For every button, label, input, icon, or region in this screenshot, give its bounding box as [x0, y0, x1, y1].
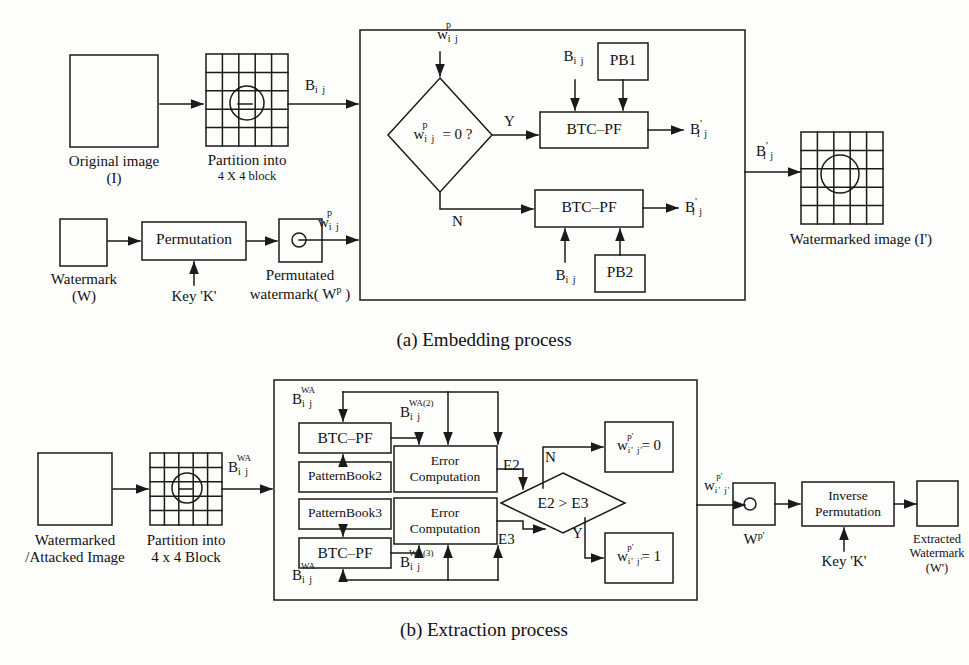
error-computation-top-line1: Error — [410, 453, 481, 469]
branch-yes-label-a: Y — [504, 114, 515, 130]
inverse-permutation-label: Inverse Permutation — [815, 488, 881, 519]
b-in-top-label-a: Bi j — [563, 49, 584, 67]
partition-label-a-line2: 4 X 4 block — [208, 169, 287, 183]
embedding-process-box — [360, 30, 745, 300]
pb1-label: PB1 — [610, 52, 637, 68]
result-one-label: wi' j'p'= 1 — [617, 549, 661, 566]
permuted-watermark-line2: watermark( Wp ) — [250, 284, 351, 303]
watermark-label: Watermark (W) — [51, 271, 117, 306]
key-label-a: Key 'K' — [172, 289, 217, 305]
btc-pf-top-label-a: BTC–PF — [566, 121, 621, 137]
attacked-image-line1: Watermarked — [25, 532, 125, 549]
branch-yes-label-b: Y — [572, 526, 583, 542]
inverse-permutation-line2: Permutation — [815, 504, 881, 520]
permuted-watermark-line1: Permutated — [250, 267, 351, 284]
b-final-label-a: B'i j — [756, 140, 779, 162]
watermark-label-line1: Watermark — [51, 271, 117, 288]
original-image-square — [70, 55, 158, 147]
figure-root: Original image (I) Partition into 4 X 4 … — [0, 0, 969, 665]
error-computation-top-line2: Computation — [410, 469, 481, 485]
decision-a-sup: p — [422, 119, 427, 130]
caption-b: (b) Extraction process — [400, 620, 568, 640]
partition-label-a: Partition into 4 X 4 block — [208, 152, 287, 184]
wp-signal-label: wi jp — [318, 214, 345, 233]
b-in-bottom-label-a: Bi j — [555, 268, 576, 286]
b-wa2-label: Bi jWA(2) — [400, 405, 446, 423]
w-out-label: wi' j'p' — [704, 478, 736, 495]
wp-prime-label: Wp' — [744, 531, 765, 548]
watermark-label-line2: (W) — [51, 288, 117, 305]
btc-pf-bottom-label-a: BTC–PF — [561, 199, 616, 215]
partition-grid-a — [206, 54, 288, 146]
watermarked-grid — [801, 132, 883, 224]
wp-input-label-a: wi jp — [437, 26, 464, 45]
partition-highlight-circle-b — [172, 473, 202, 503]
partition-label-b-line1: Partition into — [147, 532, 226, 549]
error-computation-bottom-line1: Error — [410, 505, 481, 521]
decision-diamond-a-label: wi jp= 0 ? — [413, 126, 472, 145]
e2-label: E2 — [503, 458, 520, 474]
key-label-b: Key 'K' — [822, 554, 867, 570]
b-wa-bottom-inner-label: Bi jWA — [292, 568, 327, 586]
extraction-process-box — [274, 380, 697, 600]
pattern-book-2-label-b: PatternBook2 — [308, 469, 382, 483]
extracted-watermark-line3: (W') — [909, 561, 964, 575]
original-image-label: Original image (I) — [69, 153, 159, 188]
partition-label-a-line1: Partition into — [208, 152, 287, 169]
inverse-permutation-line1: Inverse — [815, 488, 881, 504]
wp-prime-square — [733, 483, 775, 525]
wp-prime-circle — [744, 498, 756, 510]
decision-diamond-b-label: E2 > E3 — [538, 495, 589, 511]
b-wa-top-inner-label: Bi jWA — [292, 392, 327, 410]
wp-sup: p — [327, 207, 332, 218]
pb2-label: PB2 — [607, 264, 634, 280]
e3-label: E3 — [498, 532, 515, 548]
watermarked-image-label: Watermarked image (I') — [790, 232, 932, 248]
partition-label-b: Partition into 4 x 4 Block — [147, 532, 226, 567]
b-out-top-label-a: B'i j — [690, 118, 713, 140]
decision-a-sub: i j — [424, 133, 435, 144]
b-ij-base: B — [305, 77, 315, 93]
b-out-bottom-label-a: B'i j — [685, 196, 708, 218]
btc-pf-top-label-b: BTC–PF — [317, 430, 372, 446]
original-image-label-line2: (I) — [69, 170, 159, 187]
decision-a-tail: = 0 ? — [442, 126, 472, 142]
pattern-book-3-label-b: PatternBook3 — [308, 506, 382, 520]
b-ij-sub: i j — [315, 84, 326, 95]
b-wa3-label: Bi jWA(3) — [400, 555, 446, 573]
b-wa-signal-label: Bi jWA — [228, 460, 263, 478]
extracted-watermark-line1: Extracted — [909, 532, 964, 546]
branch-no-label-a: N — [452, 214, 463, 230]
error-computation-bottom-label: Error Computation — [410, 505, 481, 536]
extracted-watermark-label: Extracted Watermark (W') — [909, 532, 964, 575]
original-image-label-line1: Original image — [69, 153, 159, 170]
btc-pf-bottom-label-b: BTC–PF — [317, 545, 372, 561]
attacked-image-label: Watermarked /Attacked Image — [25, 532, 125, 567]
result-zero-label: wi' j'p'= 0 — [617, 438, 661, 455]
error-computation-bottom-line2: Computation — [410, 521, 481, 537]
attacked-image-square — [38, 453, 112, 525]
partition-label-b-line2: 4 x 4 Block — [147, 549, 226, 566]
permuted-watermark-label: Permutated watermark( Wp ) — [250, 267, 351, 304]
permutation-box-label: Permutation — [156, 231, 232, 247]
branch-no-label-b: N — [545, 450, 556, 466]
attacked-image-line2: /Attacked Image — [25, 549, 125, 566]
caption-a: (a) Embedding process — [396, 330, 571, 350]
error-computation-top-label: Error Computation — [410, 453, 481, 484]
extracted-watermark-square — [917, 481, 958, 526]
watermark-square — [60, 219, 107, 266]
extracted-watermark-line2: Watermark — [909, 546, 964, 560]
wp-sub: i j — [329, 221, 340, 232]
b-ij-signal-label-a: Bi j — [305, 78, 326, 96]
